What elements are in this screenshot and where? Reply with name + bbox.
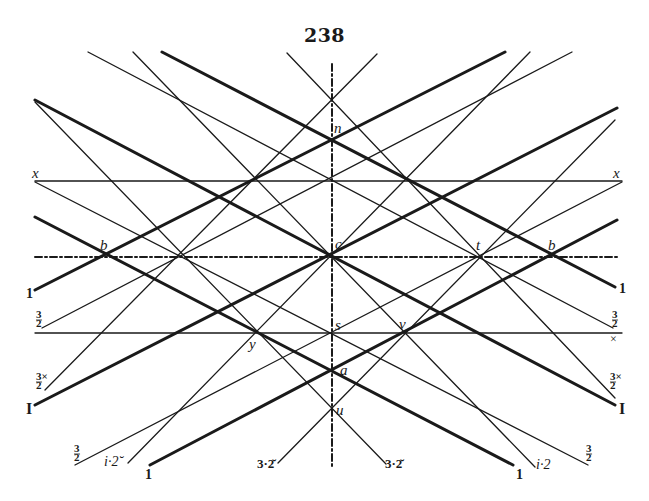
svg-text:2: 2 xyxy=(612,317,618,329)
label-x-right: x xyxy=(612,165,620,181)
point-n: n xyxy=(334,120,342,136)
label-3-2-right: 32 xyxy=(612,308,618,329)
label-1-left: 1 xyxy=(26,286,33,301)
svg-text:2: 2 xyxy=(74,451,80,463)
line-thin-x-left xyxy=(35,182,588,465)
label-1-bottom-right: 1 xyxy=(516,467,523,482)
line-thin-i2-right xyxy=(133,52,535,467)
line-thin-3x-2-right xyxy=(287,53,615,398)
point-u: u xyxy=(336,402,344,418)
label-i2-left: i·2̆ xyxy=(104,454,124,469)
label-x-breve-right: × xyxy=(610,332,617,346)
line-thin-a xyxy=(35,102,386,464)
label-1-right: 1 xyxy=(619,281,626,296)
line-thin-3x-2-left xyxy=(45,54,377,390)
label-1-bottom-left: 1 xyxy=(145,467,152,482)
label-3-2-bottom-left: 32 xyxy=(74,442,80,463)
point-b-left: b xyxy=(100,237,108,253)
diagram-labels: ncbbtsvyauxx1323×2I32i·2̆13·2̆3·2̆1i·232… xyxy=(26,120,626,482)
label-3-2-breve-left: 3·2̆ xyxy=(257,456,276,471)
point-a: a xyxy=(340,362,348,378)
label-I-right: I xyxy=(619,400,625,417)
point-v: v xyxy=(399,316,406,332)
diagram-lines xyxy=(35,52,622,467)
line-thin-3-2-bottom-left xyxy=(75,182,622,465)
geometric-line-diagram: ncbbtsvyauxx1323×2I32i·2̆13·2̆3·2̆1i·232… xyxy=(0,0,649,501)
label-i2-right: i·2 xyxy=(536,457,550,472)
svg-text:2: 2 xyxy=(36,317,42,329)
point-b-right: b xyxy=(548,237,556,253)
point-c: c xyxy=(335,236,342,252)
svg-text:2: 2 xyxy=(610,379,616,391)
line-thick-1-left xyxy=(35,52,505,290)
label-I-left: I xyxy=(26,400,32,417)
line-thin-3-2-breve-left xyxy=(278,120,615,463)
label-3-2-left: 32 xyxy=(36,308,42,329)
label-3-2-bottom-right: 32 xyxy=(586,442,592,463)
label-3-2-breve-right: 3·2̆ xyxy=(385,456,404,471)
point-y: y xyxy=(247,336,256,352)
point-t: t xyxy=(476,237,481,253)
label-x-left: x xyxy=(31,165,39,181)
svg-text:2: 2 xyxy=(586,451,592,463)
svg-text:2: 2 xyxy=(36,379,42,391)
label-3x-2-right: 3×2 xyxy=(610,370,622,391)
point-s: s xyxy=(335,317,341,333)
